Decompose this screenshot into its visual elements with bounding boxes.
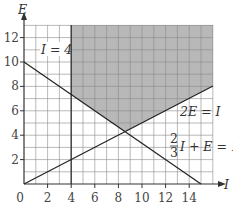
svg-text:12: 12: [4, 31, 19, 45]
svg-text:14: 14: [182, 191, 198, 205]
svg-text:0: 0: [16, 191, 24, 205]
svg-text:3: 3: [170, 145, 178, 160]
y-tick-labels: 2 4 6 8 10 12: [4, 31, 20, 167]
svg-text:2: 2: [44, 191, 52, 205]
label-i-equals-4: I = 4: [40, 42, 72, 57]
svg-text:8: 8: [115, 191, 123, 205]
svg-text:I + E = 10: I + E = 10: [179, 139, 233, 154]
svg-text:6: 6: [11, 104, 19, 118]
svg-text:4: 4: [11, 128, 19, 142]
svg-text:4: 4: [67, 191, 75, 205]
svg-text:10: 10: [4, 55, 19, 69]
svg-text:2: 2: [170, 131, 178, 146]
y-axis-label: E: [17, 2, 27, 17]
svg-text:8: 8: [11, 79, 19, 93]
feasible-region-chart: 0 2 4 6 8 10 12 14 2 4 6 8 10 12 E I I =…: [0, 0, 233, 206]
x-axis-label: I: [223, 177, 230, 192]
svg-text:10: 10: [134, 191, 149, 205]
label-2e-equals-i: 2E = I: [179, 104, 221, 119]
svg-text:6: 6: [91, 191, 99, 205]
x-tick-labels: 0 2 4 6 8 10 12 14: [16, 191, 197, 205]
svg-text:12: 12: [158, 191, 173, 205]
svg-text:2: 2: [11, 153, 19, 167]
